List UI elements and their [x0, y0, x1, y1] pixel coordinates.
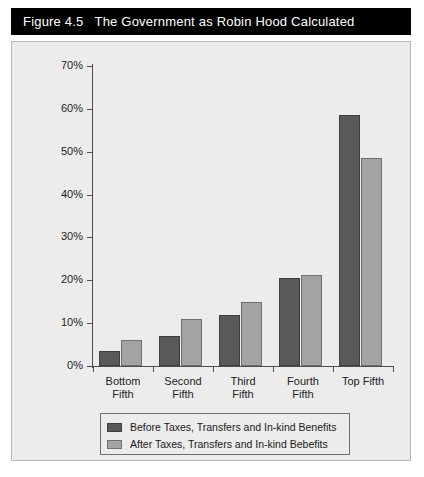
legend-label: Before Taxes, Transfers and In-kind Bene… [130, 421, 336, 433]
bar-group [273, 66, 333, 366]
legend-swatch-before-icon [107, 423, 122, 432]
y-axis-tick-label-text: 10% [13, 316, 83, 328]
x-axis-line [92, 366, 394, 367]
figure-container: Figure 4.5 The Government as Robin Hood … [0, 0, 424, 477]
chart-panel: 0%10%20%30%40%50%60%70% BottomFifthSecon… [11, 41, 411, 461]
legend-swatch-after-icon [107, 440, 122, 449]
y-axis-tick-label-text: 40% [13, 188, 83, 200]
x-axis-tick-mark [153, 367, 154, 372]
bar-before [159, 336, 180, 366]
y-axis-tick-label-text: 30% [13, 230, 83, 242]
x-axis-tick-mark [393, 367, 394, 372]
figure-number: Figure 4.5 [23, 14, 84, 29]
y-axis-tick-label-text: 50% [13, 145, 83, 157]
y-axis-tick-label-text: 0% [13, 359, 83, 371]
legend-item: After Taxes, Transfers and In-kind Bebef… [107, 436, 343, 452]
bar-group [153, 66, 213, 366]
bar-before [339, 115, 360, 366]
bar-group [333, 66, 393, 366]
bar-group [213, 66, 273, 366]
legend-item: Before Taxes, Transfers and In-kind Bene… [107, 419, 343, 435]
legend-label: After Taxes, Transfers and In-kind Bebef… [130, 438, 328, 450]
bar-before [219, 315, 240, 366]
plot-area [93, 66, 393, 366]
y-axis-tick-label-text: 20% [13, 273, 83, 285]
chart-legend: Before Taxes, Transfers and In-kind Bene… [100, 413, 350, 455]
x-axis-category-label: Top Fifth [326, 375, 400, 388]
y-axis-tick-label-text: 70% [13, 59, 83, 71]
x-axis-tick-mark [93, 367, 94, 372]
bar-before [279, 278, 300, 366]
x-axis-tick-mark [273, 367, 274, 372]
bar-group [93, 66, 153, 366]
figure-title: The Government as Robin Hood Calculated [95, 14, 355, 29]
bar-after [301, 275, 322, 366]
x-axis-tick-mark [213, 367, 214, 372]
bar-after [241, 302, 262, 366]
figure-title-bar: Figure 4.5 The Government as Robin Hood … [11, 8, 411, 35]
y-axis-tick-label-text: 60% [13, 102, 83, 114]
bar-after [121, 340, 142, 366]
bar-before [99, 351, 120, 366]
x-axis-tick-mark [333, 367, 334, 372]
x-axis-category-label-line: Fifth [266, 388, 340, 401]
bar-after [181, 319, 202, 366]
x-axis-category-label-line: Top Fifth [326, 375, 400, 388]
bar-after [361, 158, 382, 366]
